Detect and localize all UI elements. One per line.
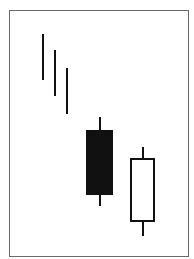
price-bar-line xyxy=(42,34,44,80)
bearish-candle-body xyxy=(86,130,113,194)
price-bar-line xyxy=(54,50,56,96)
bullish-candle-body xyxy=(130,158,155,222)
price-bar-line xyxy=(66,68,68,114)
